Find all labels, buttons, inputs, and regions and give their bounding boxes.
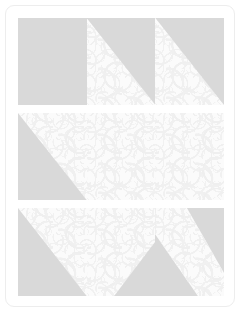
- quilt-unit-r1c3: [155, 18, 224, 105]
- corner-wedge-overlay: [87, 208, 156, 296]
- quilt-row-top: [18, 18, 224, 105]
- quilt-unit-r2c2: [87, 113, 156, 200]
- triangle-overlay: [18, 208, 87, 296]
- quilt-row-middle: [18, 113, 224, 200]
- quilt-unit-r1c2: [87, 18, 156, 105]
- quilt-canvas: [18, 18, 224, 296]
- quilt-unit-r2c3: [155, 113, 224, 200]
- quilt-unit-r3c1: [18, 208, 87, 296]
- quilt-card: [5, 5, 235, 307]
- diagonal-sash-overlay: [155, 208, 224, 296]
- quilt-unit-r2c1: [18, 113, 87, 200]
- quilt-row-bottom: [18, 208, 224, 296]
- quilt-unit-r3c2: [87, 208, 156, 296]
- triangle-overlay: [87, 18, 156, 105]
- quilt-unit-r1c1: [18, 18, 87, 105]
- quilt-unit-r3c3: [155, 208, 224, 296]
- triangle-overlay: [155, 18, 224, 105]
- triangle-overlay: [18, 113, 87, 200]
